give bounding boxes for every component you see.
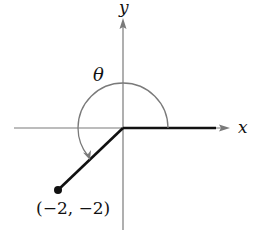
diagram-canvas (0, 0, 257, 230)
x-axis-label: x (238, 117, 248, 137)
angle-diagram: y x θ (−2, −2) (0, 0, 257, 230)
terminal-point-label: (−2, −2) (36, 198, 110, 218)
terminal-side (58, 128, 123, 190)
terminal-point (54, 186, 62, 194)
y-axis-label: y (119, 0, 129, 17)
angle-label: θ (93, 64, 104, 85)
